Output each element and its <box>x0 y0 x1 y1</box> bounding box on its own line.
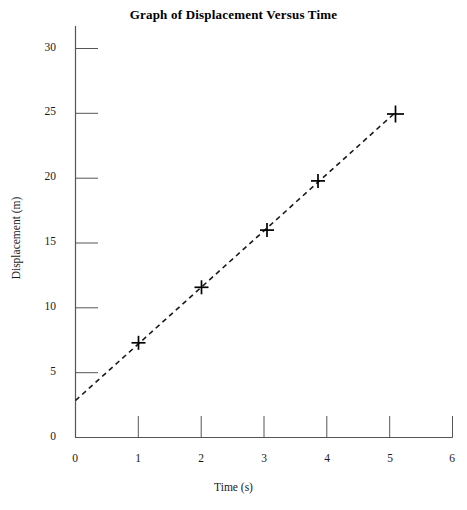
x-tick-label-6: 6 <box>437 452 467 464</box>
plot-area <box>0 0 467 510</box>
x-tick-label-2: 2 <box>186 452 216 464</box>
y-tick-label-30: 30 <box>22 41 56 53</box>
x-tick-label-3: 3 <box>249 452 279 464</box>
y-tick-label-10: 10 <box>22 300 56 312</box>
data-point-marker <box>387 106 404 123</box>
y-tick-marks <box>76 49 99 438</box>
y-tick-label-0: 0 <box>22 430 56 442</box>
y-tick-label-15: 15 <box>22 235 56 247</box>
x-tick-label-4: 4 <box>312 452 342 464</box>
chart-figure: Graph of Displacement Versus Time <box>0 0 467 510</box>
y-axis-label: Displacement (m) <box>10 178 22 298</box>
trend-line <box>76 112 397 401</box>
data-point-marker <box>311 174 325 188</box>
data-point-marker <box>132 336 146 350</box>
x-tick-label-0: 0 <box>60 452 90 464</box>
x-tick-label-5: 5 <box>375 452 405 464</box>
x-tick-label-1: 1 <box>123 452 153 464</box>
data-point-marker <box>260 223 274 237</box>
y-tick-label-25: 25 <box>22 105 56 117</box>
x-axis-label: Time (s) <box>0 481 467 493</box>
y-tick-label-20: 20 <box>22 170 56 182</box>
x-tick-marks <box>76 416 453 438</box>
y-tick-label-5: 5 <box>22 365 56 377</box>
